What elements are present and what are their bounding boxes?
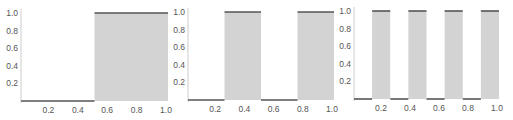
area-fill [372, 11, 390, 99]
y-tick-label: 1.0 [339, 6, 351, 16]
x-tick-label: 0.2 [375, 103, 387, 113]
y-tick-label: 0.4 [339, 59, 351, 69]
y-tick-label: 0.2 [339, 76, 351, 86]
x-tick-label: 0.4 [404, 103, 416, 113]
area-fill [481, 11, 499, 99]
y-tick-label: 0.8 [339, 24, 351, 34]
y-tick-label: 0.6 [339, 41, 351, 51]
x-tick-label: 0.8 [462, 103, 474, 113]
area-fill [408, 11, 426, 99]
x-tick-label: 0.6 [433, 103, 445, 113]
area-fill [445, 11, 463, 99]
step-chart-3: 0.20.40.60.81.00.20.40.60.81.0 [0, 0, 513, 120]
x-tick-label: 1.0 [491, 103, 503, 113]
